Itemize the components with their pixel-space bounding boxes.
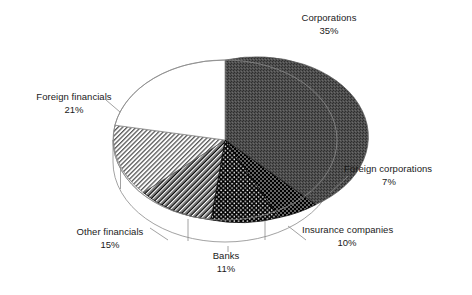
pie-chart-figure: Corporations 35% Foreign corporations 7%… bbox=[0, 0, 472, 295]
slice-label-foreign-financials-name: Foreign financials bbox=[12, 91, 136, 104]
slice-label-other-financials-name: Other financials bbox=[48, 226, 172, 239]
slice-label-banks-percent: 11% bbox=[186, 263, 266, 276]
slice-label-foreign-corporations: Foreign corporations 7% bbox=[344, 163, 470, 188]
slice-label-banks-name: Banks bbox=[186, 250, 266, 263]
slice-label-foreign-corporations-percent: 7% bbox=[344, 176, 470, 189]
slice-label-corporations-percent: 35% bbox=[274, 25, 384, 38]
slice-label-insurance-companies-percent: 10% bbox=[302, 237, 452, 250]
slice-label-foreign-corporations-name: Foreign corporations bbox=[344, 163, 470, 176]
slice-label-corporations: Corporations 35% bbox=[274, 12, 384, 37]
slice-label-foreign-financials-percent: 21% bbox=[12, 104, 136, 117]
slice-label-banks: Banks 11% bbox=[186, 250, 266, 275]
slice-label-insurance-companies: Insurance companies 10% bbox=[302, 224, 452, 249]
slice-label-other-financials-percent: 15% bbox=[48, 239, 172, 252]
slice-label-insurance-companies-name: Insurance companies bbox=[302, 224, 452, 237]
slice-label-foreign-financials: Foreign financials 21% bbox=[12, 91, 136, 116]
slice-label-corporations-name: Corporations bbox=[274, 12, 384, 25]
slice-label-other-financials: Other financials 15% bbox=[48, 226, 172, 251]
pie-slices bbox=[113, 57, 368, 223]
